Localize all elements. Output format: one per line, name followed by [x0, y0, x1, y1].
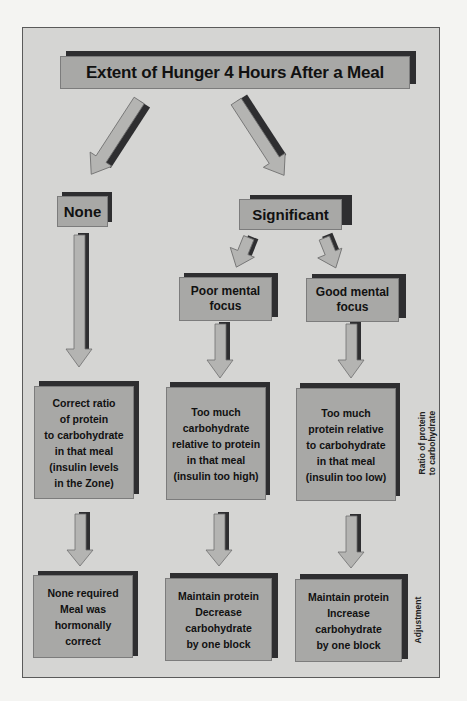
arrow-significant-to-good — [311, 232, 348, 273]
line: in that meal — [55, 443, 113, 459]
line: Too much — [191, 404, 240, 420]
line: to carbohydrate — [44, 427, 123, 443]
side-line: Ratio of protein — [417, 393, 427, 493]
line: (insulin levels — [49, 459, 118, 475]
line: in that meal — [317, 453, 375, 469]
none-box: None — [57, 196, 108, 227]
line: Maintain protein — [308, 589, 389, 605]
line: by one block — [316, 637, 380, 653]
side-line: to carbohydrate — [427, 393, 437, 493]
adjust-box-2: Maintain protein Decrease carbohydrate b… — [165, 578, 272, 661]
line: protein relative — [308, 421, 383, 437]
adjust-box-3: Maintain protein Increase carbohydrate b… — [295, 579, 402, 662]
line: relative to protein — [172, 436, 260, 452]
line: Correct ratio — [52, 395, 115, 411]
line: None required — [47, 585, 118, 601]
arrow-ratio2-to-adjust2 — [206, 512, 232, 566]
line: by one block — [186, 636, 250, 652]
none-label: None — [64, 203, 102, 220]
arrow-none-to-ratio — [66, 233, 92, 367]
ratio-box-1: Correct ratio of protein to carbohydrate… — [34, 386, 134, 499]
adjustment-side-label: Adjustment — [413, 590, 425, 650]
ratio-side-label: Ratio of protein to carbohydrate — [417, 393, 439, 493]
line: of protein — [60, 411, 108, 427]
line: Increase — [327, 605, 370, 621]
line: Too much — [321, 405, 370, 421]
arrow-ratio1-to-adjust1 — [67, 512, 93, 566]
adjust-box-1: None required Meal was hormonally correc… — [33, 575, 133, 658]
arrow-title-to-significant — [225, 94, 295, 182]
arrow-significant-to-poor — [224, 231, 261, 272]
line: in that meal — [187, 452, 245, 468]
diagram-title: Extent of Hunger 4 Hours After a Meal — [86, 63, 384, 83]
line: to carbohydrate — [306, 437, 385, 453]
good-focus-label: Good mental focus — [315, 285, 390, 315]
line: Maintain protein — [178, 588, 259, 604]
line: in the Zone) — [54, 475, 114, 491]
arrow-good-to-ratio — [338, 322, 364, 378]
arrow-title-to-none — [80, 93, 150, 181]
significant-box: Significant — [239, 199, 342, 230]
poor-focus-label: Poor mental focus — [190, 284, 261, 314]
line: carbohydrate — [185, 620, 252, 636]
poor-focus-box: Poor mental focus — [179, 277, 272, 321]
line: hormonally — [55, 617, 112, 633]
arrow-ratio3-to-adjust3 — [338, 514, 364, 568]
line: Decrease — [195, 604, 242, 620]
title-box: Extent of Hunger 4 Hours After a Meal — [60, 56, 410, 89]
line: correct — [65, 633, 101, 649]
ratio-box-2: Too much carbohydrate relative to protei… — [166, 387, 266, 500]
line: (insulin too low) — [306, 469, 386, 485]
side-line: Adjustment — [413, 597, 423, 644]
line: carbohydrate — [183, 420, 250, 436]
line: carbohydrate — [315, 621, 382, 637]
line: (insulin too high) — [173, 468, 258, 484]
good-focus-box: Good mental focus — [306, 278, 399, 322]
line: Meal was — [60, 601, 106, 617]
arrow-poor-to-ratio — [207, 322, 233, 378]
significant-label: Significant — [252, 206, 329, 223]
ratio-box-3: Too much protein relative to carbohydrat… — [296, 388, 396, 501]
